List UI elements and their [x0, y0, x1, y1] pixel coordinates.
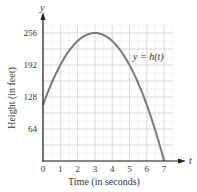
x-tick-label: 5: [127, 164, 132, 174]
curve-label: y = h(t): [132, 51, 164, 63]
x-tick-label: 4: [110, 164, 115, 174]
y-tick-label: 256: [24, 28, 38, 38]
x-axis-var: t: [189, 155, 192, 166]
y-axis-arrow-icon: [41, 12, 46, 20]
x-tick-label: 7: [162, 164, 167, 174]
x-tick-label: 0: [41, 164, 46, 174]
y-tick-label: 192: [24, 60, 38, 70]
y-tick-label: 128: [24, 92, 38, 102]
y-axis-var: y: [39, 2, 45, 13]
x-tick-label: 6: [145, 164, 150, 174]
x-tick-label: 3: [93, 164, 98, 174]
x-axis-arrow-icon: [178, 159, 186, 164]
x-tick-label: 2: [75, 164, 80, 174]
parabola-chart: 0123456764128192256 y t y = h(t) Time (i…: [0, 0, 197, 192]
x-axis-label: Time (in seconds): [68, 176, 140, 188]
x-tick-label: 1: [58, 164, 63, 174]
grid: [43, 25, 173, 161]
y-axis-label: Height (in feet): [6, 67, 18, 129]
y-tick-label: 64: [28, 124, 38, 134]
